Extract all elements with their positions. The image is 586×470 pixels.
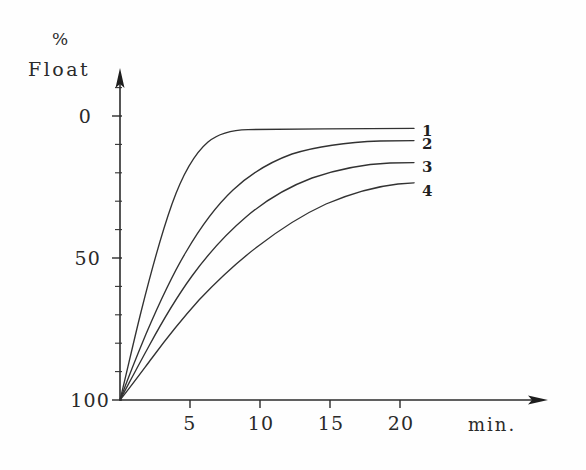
flotation-kinetics-chart: 1 2 3 4 0 50 100 5 10 15 20 min. % Float	[0, 0, 586, 470]
y-tick-label-0: 0	[79, 105, 92, 127]
y-tick-label-50: 50	[74, 247, 101, 269]
curve-label-2: 2	[422, 135, 432, 153]
x-tick-label-15: 15	[318, 412, 345, 434]
curve-series-1	[120, 128, 414, 400]
y-axis-minor-ticks	[115, 88, 122, 372]
y-axis-label: Float	[28, 58, 90, 80]
y-tick-label-100: 100	[70, 389, 110, 411]
x-axis	[120, 396, 548, 405]
y-axis	[116, 68, 125, 400]
x-tick-label-20: 20	[388, 412, 415, 434]
curve-series-2	[120, 141, 414, 400]
chart-figure: 1 2 3 4 0 50 100 5 10 15 20 min. % Float	[0, 0, 586, 470]
curve-series-4	[120, 183, 414, 400]
x-tick-label-5: 5	[183, 412, 196, 434]
x-axis-ticks	[190, 400, 400, 408]
curve-label-4: 4	[422, 182, 432, 200]
x-tick-label-10: 10	[248, 412, 275, 434]
y-axis-percent-symbol: %	[52, 29, 68, 49]
x-axis-unit-label: min.	[468, 414, 516, 435]
curve-series-3	[120, 163, 414, 400]
curve-label-3: 3	[422, 158, 432, 176]
